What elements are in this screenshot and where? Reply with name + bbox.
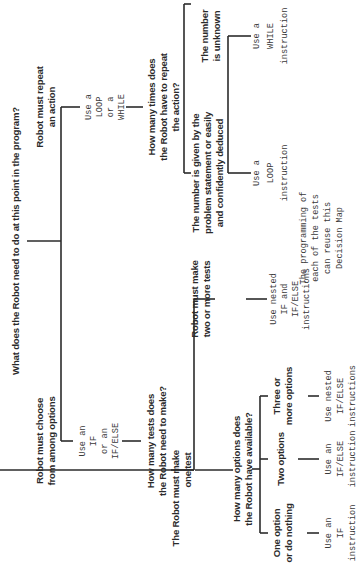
option-one-label: One option or do nothing — [271, 503, 294, 563]
svg-text:The programming of: The programming of — [299, 192, 309, 285]
choose-options-label: Robot must choose from among options — [34, 396, 57, 485]
svg-text:two or more tests: two or more tests — [201, 261, 212, 338]
svg-text:Two options: Two options — [275, 432, 286, 486]
svg-text:One option: One option — [271, 508, 282, 557]
svg-text:The Robot must make: The Robot must make — [170, 450, 181, 546]
svg-text:from among options: from among options — [46, 396, 57, 485]
repeat-count-question: How many times does the Robot have to re… — [146, 52, 181, 161]
ifelse-instruction: Use an IF/ELSE instruction — [324, 431, 358, 488]
if-or-ifelse-instruction: Use an IF or an IF/ELSE — [78, 423, 121, 459]
svg-text:the Robot have to repeat: the Robot have to repeat — [158, 52, 169, 161]
option-count-question: How many options does the Robot have ava… — [231, 412, 254, 526]
reuse-decision-map-note: The programming of each of the tests can… — [299, 192, 345, 285]
svg-text:How many options does: How many options does — [231, 416, 242, 522]
root-question: What does the Robot need to do at this p… — [10, 107, 21, 375]
multiple-tests-label: Robot must make two or more tests — [189, 260, 212, 338]
svg-text:Use nested: Use nested — [324, 370, 334, 422]
svg-text:or an: or an — [100, 428, 110, 454]
while-instruction: Use a WHILE instruction — [252, 8, 290, 65]
repeat-action-label: Robot must repeat an action — [34, 65, 57, 147]
number-unknown-label: The number is unknown — [199, 9, 222, 62]
svg-text:or do nothing: or do nothing — [283, 503, 294, 563]
svg-text:Decision Map: Decision Map — [335, 207, 345, 269]
test-count-question: How many tests does the Robot need to ma… — [145, 386, 168, 496]
svg-text:Robot must make: Robot must make — [189, 260, 200, 338]
svg-text:Use a: Use a — [252, 160, 262, 186]
svg-text:Use an: Use an — [324, 518, 334, 549]
svg-text:instruction: instruction — [280, 8, 290, 65]
svg-text:IF: IF — [89, 436, 99, 446]
svg-text:instruction: instruction — [348, 431, 358, 488]
svg-text:Use a: Use a — [84, 94, 94, 120]
svg-text:and confidently deduced: and confidently deduced — [214, 118, 225, 227]
svg-text:the Robot have available?: the Robot have available? — [243, 412, 254, 526]
svg-text:or a: or a — [106, 97, 116, 118]
svg-text:How many tests does: How many tests does — [145, 394, 156, 488]
svg-text:IF/ELSE: IF/ELSE — [336, 441, 346, 477]
svg-text:WHILE: WHILE — [266, 23, 276, 49]
svg-text:instruction: instruction — [280, 145, 290, 202]
svg-text:problem statement or easily: problem statement or easily — [202, 111, 213, 234]
option-three-label: Three or more options — [271, 367, 294, 425]
svg-text:IF and: IF and — [280, 284, 290, 315]
loop-or-while-instruction: Use a LOOP or a WHILE — [84, 94, 127, 120]
svg-text:can reuse this: can reuse this — [323, 202, 333, 274]
svg-text:IF/ELSE: IF/ELSE — [111, 423, 121, 459]
svg-text:Three or: Three or — [271, 377, 282, 414]
svg-text:Use an: Use an — [324, 444, 334, 475]
svg-text:each of the tests: each of the tests — [311, 194, 321, 282]
svg-text:the Robot need to make?: the Robot need to make? — [157, 386, 168, 496]
svg-text:What does the Robot need to do: What does the Robot need to do at this p… — [10, 107, 21, 375]
loop-instruction: Use a LOOP instruction — [252, 145, 290, 202]
svg-text:instructions: instructions — [348, 365, 358, 427]
nested-ifelse-instruction: Use nested IF/ELSE instructions — [324, 365, 358, 427]
svg-text:is unknown: is unknown — [211, 10, 222, 61]
svg-text:IF: IF — [336, 528, 346, 538]
svg-text:one test: one test — [182, 451, 193, 487]
svg-text:Use a: Use a — [252, 23, 262, 49]
number-known-label: The number is given by the problem state… — [190, 111, 225, 234]
svg-text:The number is given by the: The number is given by the — [190, 113, 201, 232]
svg-text:an action: an action — [46, 87, 57, 128]
svg-text:WHILE: WHILE — [117, 94, 127, 120]
svg-text:more options: more options — [283, 367, 294, 425]
option-two-label: Two options — [275, 432, 286, 486]
if-instruction: Use an IF instruction — [324, 505, 358, 562]
svg-text:IF/ELSE: IF/ELSE — [336, 378, 346, 414]
svg-text:IF/ELSE: IF/ELSE — [291, 281, 301, 317]
svg-text:Use nested: Use nested — [269, 273, 279, 325]
svg-text:How many times does: How many times does — [146, 59, 157, 156]
svg-text:The number: The number — [199, 9, 210, 62]
svg-text:Use an: Use an — [78, 426, 88, 457]
decision-map-diagram: What does the Robot need to do at this p… — [0, 0, 360, 581]
svg-text:Robot must choose: Robot must choose — [34, 398, 45, 484]
svg-text:LOOP: LOOP — [266, 163, 276, 184]
svg-text:LOOP: LOOP — [95, 97, 105, 118]
one-test-label: The Robot must make one test — [170, 450, 193, 546]
svg-text:the action?: the action? — [170, 82, 181, 131]
svg-text:instruction: instruction — [348, 505, 358, 562]
svg-text:Robot must repeat: Robot must repeat — [34, 65, 45, 147]
